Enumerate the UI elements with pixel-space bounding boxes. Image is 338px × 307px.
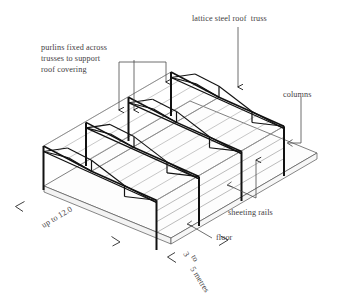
label-purlins-line2: trusses to support bbox=[41, 54, 100, 64]
label-purlins-line1: purlins fixed across bbox=[41, 43, 107, 53]
label-purlins-line3: roof covering bbox=[41, 65, 87, 75]
label-columns: columns bbox=[283, 90, 311, 100]
label-lattice-steel-roof-truss: lattice steel roof truss bbox=[192, 14, 267, 24]
label-sheeting-rails: sheeting rails bbox=[228, 208, 273, 218]
leader-columns bbox=[287, 97, 301, 146]
label-floor: floor bbox=[216, 233, 232, 243]
